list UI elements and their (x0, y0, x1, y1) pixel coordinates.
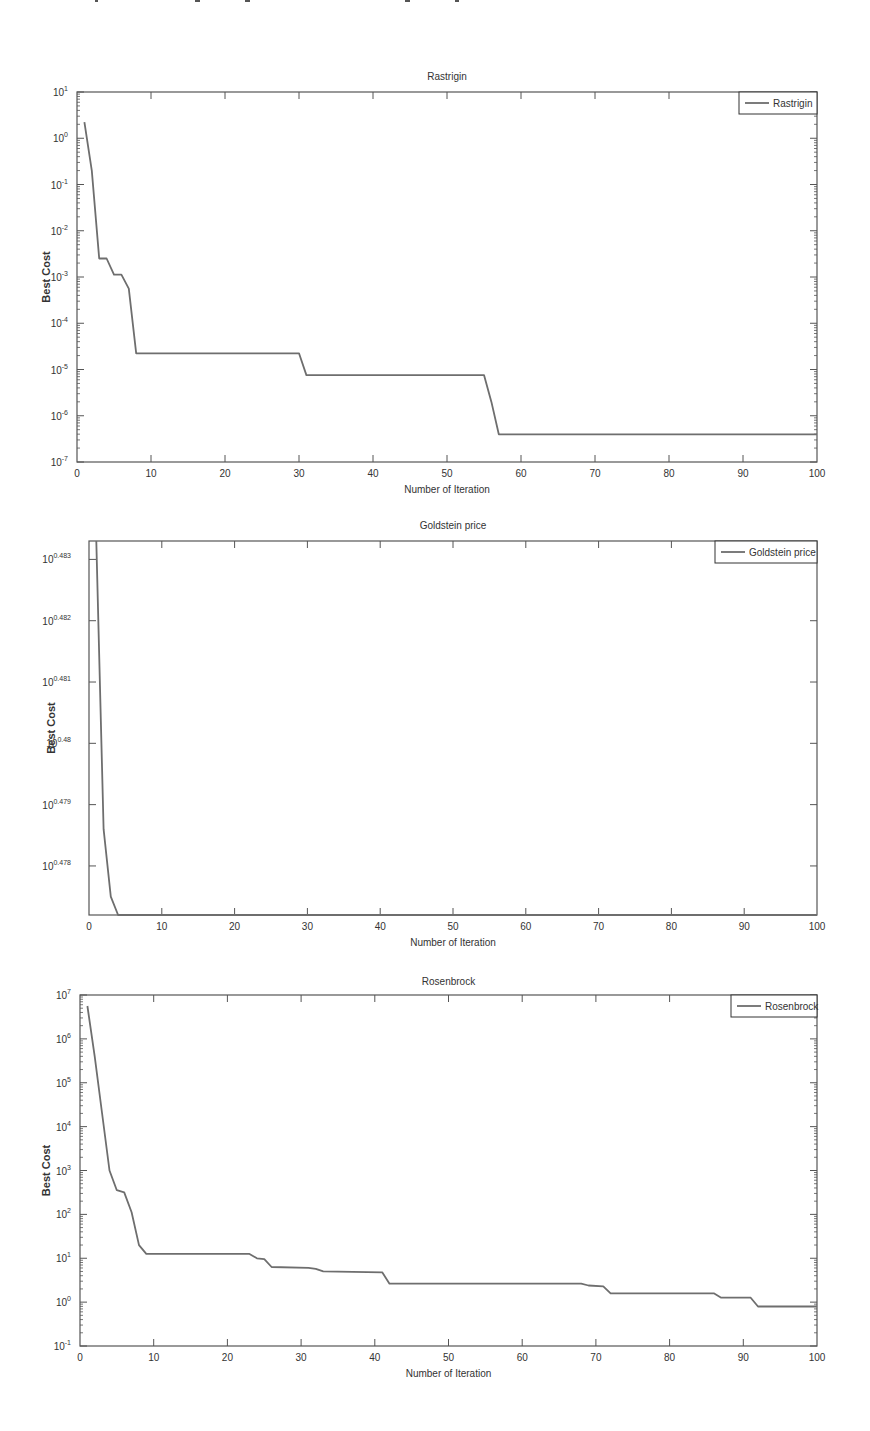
plot-frame (89, 541, 817, 915)
top-cropped-text (95, 0, 459, 2)
chart-goldstein-price: Goldstein price0102030405060708090100Num… (42, 520, 825, 948)
chart-rastrigin: Rastrigin0102030405060708090100Number of… (40, 71, 826, 495)
series-line-rosenbrock (87, 1006, 817, 1307)
y-tick-label: 10-2 (51, 224, 68, 237)
x-tick-label: 70 (593, 921, 605, 932)
y-axis-label: Best Cost (40, 251, 52, 303)
plot-frame (77, 92, 817, 462)
legend-label: Goldstein price (749, 547, 816, 558)
x-tick-label: 10 (145, 468, 157, 479)
y-tick-label: 105 (56, 1076, 71, 1089)
x-tick-label: 0 (74, 468, 80, 479)
x-tick-label: 20 (229, 921, 241, 932)
x-tick-label: 50 (443, 1352, 455, 1363)
x-tick-label: 60 (517, 1352, 529, 1363)
x-tick-label: 70 (590, 1352, 602, 1363)
chart-title: Rosenbrock (422, 976, 476, 987)
y-tick-label: 100.482 (42, 614, 71, 627)
chart-rosenbrock: Rosenbrock0102030405060708090100Number o… (40, 976, 826, 1379)
x-tick-label: 50 (447, 921, 459, 932)
x-tick-label: 90 (737, 468, 749, 479)
x-tick-label: 70 (589, 468, 601, 479)
y-tick-label: 101 (56, 1251, 71, 1264)
series-line-rastrigin (84, 122, 817, 434)
series-line-goldstein-price (96, 541, 817, 915)
legend: Rosenbrock (731, 995, 819, 1017)
y-tick-label: 10-6 (51, 409, 68, 422)
figure-canvas: Rastrigin0102030405060708090100Number of… (0, 0, 870, 1431)
y-tick-label: 10-3 (51, 270, 68, 283)
x-tick-label: 50 (441, 468, 453, 479)
x-tick-label: 100 (809, 921, 826, 932)
x-tick-label: 60 (520, 921, 532, 932)
x-tick-label: 80 (666, 921, 678, 932)
y-tick-label: 100.479 (42, 798, 71, 811)
legend: Rastrigin (739, 92, 817, 114)
y-tick-label: 100 (53, 131, 68, 144)
x-tick-label: 100 (809, 468, 826, 479)
y-tick-label: 107 (56, 988, 71, 1001)
x-tick-label: 30 (302, 921, 314, 932)
y-tick-label: 100.483 (42, 552, 71, 565)
y-tick-label: 104 (56, 1120, 71, 1133)
x-tick-label: 30 (293, 468, 305, 479)
legend: Goldstein price (715, 541, 817, 563)
y-tick-label: 106 (56, 1032, 71, 1045)
x-tick-label: 40 (375, 921, 387, 932)
x-axis-label: Number of Iteration (406, 1368, 492, 1379)
y-axis-label: Best Cost (40, 1144, 52, 1196)
chart-title: Rastrigin (427, 71, 466, 82)
x-tick-label: 20 (219, 468, 231, 479)
x-tick-label: 20 (222, 1352, 234, 1363)
x-axis-label: Number of Iteration (410, 937, 496, 948)
y-tick-label: 101 (53, 85, 68, 98)
chart-title: Goldstein price (420, 520, 487, 531)
x-tick-label: 60 (515, 468, 527, 479)
y-axis-label: Best Cost (45, 702, 57, 754)
x-axis-label: Number of Iteration (404, 484, 490, 495)
x-tick-label: 100 (809, 1352, 826, 1363)
x-tick-label: 90 (739, 921, 751, 932)
y-tick-label: 10-4 (51, 316, 68, 329)
x-tick-label: 10 (148, 1352, 160, 1363)
x-tick-label: 90 (738, 1352, 750, 1363)
legend-label: Rastrigin (773, 98, 812, 109)
x-tick-label: 30 (296, 1352, 308, 1363)
x-tick-label: 80 (664, 1352, 676, 1363)
x-tick-label: 40 (367, 468, 379, 479)
x-tick-label: 0 (77, 1352, 83, 1363)
y-tick-label: 103 (56, 1164, 71, 1177)
x-tick-label: 40 (369, 1352, 381, 1363)
y-tick-label: 10-1 (54, 1339, 71, 1352)
y-tick-label: 10-5 (51, 363, 68, 376)
y-tick-label: 100.478 (42, 859, 71, 872)
y-tick-label: 102 (56, 1207, 71, 1220)
y-tick-label: 100 (56, 1295, 71, 1308)
x-tick-label: 10 (156, 921, 168, 932)
y-tick-label: 10-1 (51, 178, 68, 191)
x-tick-label: 0 (86, 921, 92, 932)
y-tick-label: 10-7 (51, 455, 68, 468)
x-tick-label: 80 (663, 468, 675, 479)
y-tick-label: 100.481 (42, 675, 71, 688)
legend-label: Rosenbrock (765, 1001, 819, 1012)
